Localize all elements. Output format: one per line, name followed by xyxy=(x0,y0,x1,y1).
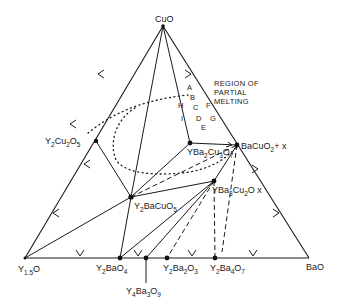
label-bao: BaO xyxy=(306,262,324,272)
tie-yba3cu2ox-y2bao4 xyxy=(120,181,214,258)
point-y2bao4 xyxy=(118,256,123,261)
arrow-icon xyxy=(76,250,84,256)
label-ybco: YBa2Cu3O7 xyxy=(187,147,234,159)
edge-right xyxy=(163,26,309,258)
point-ybco xyxy=(188,141,193,146)
arrow-icon xyxy=(70,120,76,128)
arrow-icon xyxy=(134,250,142,256)
point-label-i: I xyxy=(181,114,183,123)
region-label: REGION OF PARTIAL MELTING xyxy=(214,79,259,106)
region-points: A B C D E F G H I xyxy=(178,83,216,132)
label-bacuo2: BaCuO2+ x xyxy=(241,141,287,153)
label-y2ba2o3: Y2Ba2O3 xyxy=(163,263,198,275)
point-y2bacuo5 xyxy=(128,194,133,199)
region-label-line-3: MELTING xyxy=(214,97,249,106)
arrow-icon xyxy=(84,160,90,168)
arrow-icon xyxy=(249,250,257,256)
tie-y15o-y2bacuo5 xyxy=(25,197,131,258)
label-y2bacuo5: Y2BaCuO5 xyxy=(134,201,177,213)
label-cuo: CuO xyxy=(155,14,174,24)
ternary-phase-diagram: CuO Y1.5O BaO Y2Cu2O5 YBa2Cu3O7 BaCuO2+ … xyxy=(0,0,340,304)
label-yba3cu2ox: YBa3Cu2O x xyxy=(212,185,262,197)
point-y15o xyxy=(24,257,27,260)
point-label-e: E xyxy=(201,123,206,132)
dash-bacuo2-y2ba4o7 xyxy=(222,145,237,252)
tie-y2bacuo5-y2bao4 xyxy=(120,197,131,258)
region-label-line-1: REGION OF xyxy=(214,79,259,88)
point-cuo xyxy=(161,24,165,28)
label-y2cu2o5: Y2Cu2O5 xyxy=(45,136,81,148)
point-bacuo2 xyxy=(235,143,240,148)
label-y4ba3o9: Y4Ba3O9 xyxy=(126,286,161,298)
arrow-icon xyxy=(185,70,191,78)
point-label-c: C xyxy=(193,103,199,112)
point-label-a: A xyxy=(187,83,192,92)
label-y2bao4: Y2BaO4 xyxy=(96,263,128,275)
tie-cuo-y2bacuo5 xyxy=(131,26,163,197)
point-y4ba3o9 xyxy=(144,256,149,261)
arrow-icon xyxy=(188,250,196,256)
point-label-d: D xyxy=(196,114,202,123)
point-y2cu2o5 xyxy=(94,139,98,143)
point-label-f: F xyxy=(206,101,211,110)
point-y2ba2o3 xyxy=(165,256,170,261)
point-label-h: H xyxy=(178,101,183,110)
label-y15o: Y1.5O xyxy=(18,264,40,276)
partial-melting-boundary xyxy=(88,95,237,174)
arrow-icon xyxy=(273,209,279,217)
point-label-b: B xyxy=(190,93,195,102)
arrow-icon xyxy=(98,70,104,78)
point-label-g: G xyxy=(210,114,216,123)
point-y2ba4o7 xyxy=(213,256,218,261)
tie-cuo-ybco xyxy=(163,26,190,143)
dash-yba3cu2ox-y2ba2o3 xyxy=(167,181,214,258)
point-yba3cu2ox xyxy=(212,179,217,184)
region-label-line-2: PARTIAL xyxy=(214,88,247,97)
label-y2ba4o7: Y2Ba4O7 xyxy=(210,263,245,275)
